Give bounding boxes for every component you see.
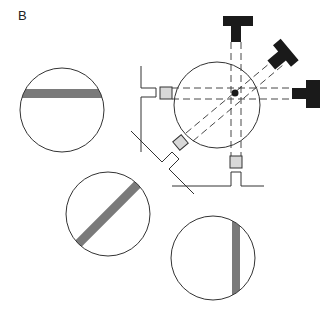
detector-diagonal: [262, 39, 298, 76]
projection-horizontal: [18, 68, 108, 152]
collimators: [131, 66, 264, 194]
detector-right: [292, 80, 320, 108]
detector-top: [223, 16, 253, 42]
tomography-diagram: [0, 0, 334, 312]
projection-circle: [171, 216, 255, 300]
source-left: [160, 87, 172, 99]
sample-circle: [174, 62, 260, 148]
collimator-left: [141, 66, 156, 152]
projection-diagonal: [60, 166, 156, 262]
projection-vertical: [171, 212, 255, 304]
projection-band: [18, 89, 108, 98]
projection-band: [60, 166, 156, 262]
source-lower-left: [173, 135, 188, 150]
projection-band: [232, 212, 240, 304]
center-dot: [232, 90, 239, 97]
projection-circle: [20, 68, 104, 152]
collimator-bottom: [172, 172, 264, 186]
source-bottom: [230, 156, 242, 168]
